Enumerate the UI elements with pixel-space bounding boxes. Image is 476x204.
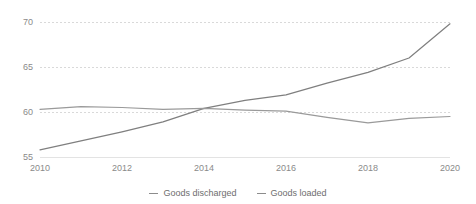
- x-axis-tick-label: 2016: [276, 163, 296, 173]
- x-axis-tick-label: 2018: [358, 163, 378, 173]
- legend-line-swatch-icon: [149, 193, 158, 194]
- line-chart: 55606570 201020122014201620182020 Goods …: [0, 0, 476, 204]
- x-axis-tick-label: 2020: [440, 163, 460, 173]
- x-axis-tick-labels: 201020122014201620182020: [30, 163, 460, 173]
- legend-label: Goods loaded: [271, 189, 327, 198]
- series-line-goods-loaded: [40, 107, 450, 123]
- x-axis-tick-label: 2010: [30, 163, 50, 173]
- legend-label: Goods discharged: [163, 189, 236, 198]
- y-axis-tick-label: 70: [23, 17, 33, 27]
- y-axis-tick-label: 60: [23, 107, 33, 117]
- legend-item-goods-loaded[interactable]: Goods loaded: [257, 189, 327, 198]
- legend-line-swatch-icon: [257, 193, 266, 194]
- chart-canvas: 55606570 201020122014201620182020: [0, 0, 476, 204]
- y-axis-tick-label: 55: [23, 152, 33, 162]
- x-axis-tick-label: 2014: [194, 163, 214, 173]
- series-line-goods-discharged: [40, 24, 450, 150]
- series-lines: [40, 24, 450, 150]
- chart-legend: Goods discharged Goods loaded: [0, 189, 476, 198]
- x-axis-tick-label: 2012: [112, 163, 132, 173]
- y-axis-tick-labels: 55606570: [23, 17, 33, 162]
- y-axis-tick-label: 65: [23, 62, 33, 72]
- legend-item-goods-discharged[interactable]: Goods discharged: [149, 189, 236, 198]
